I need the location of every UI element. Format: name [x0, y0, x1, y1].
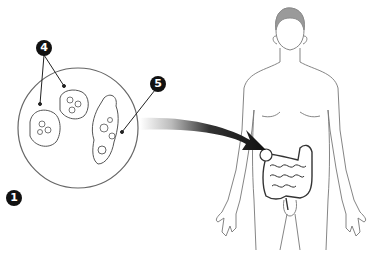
marker-5: 5: [150, 76, 166, 92]
diagram-canvas: 1 4 5: [0, 0, 381, 266]
diagram-svg: [0, 0, 381, 266]
pointer-arrow: [140, 118, 266, 150]
human-figure: [216, 8, 365, 250]
cyst: [60, 90, 88, 119]
cyst: [30, 110, 60, 146]
marker-4: 4: [36, 40, 52, 56]
marker-1: 1: [6, 190, 22, 206]
large-intestine: [260, 145, 312, 210]
magnified-view: [18, 68, 138, 188]
cecum-highlight: [260, 149, 272, 161]
